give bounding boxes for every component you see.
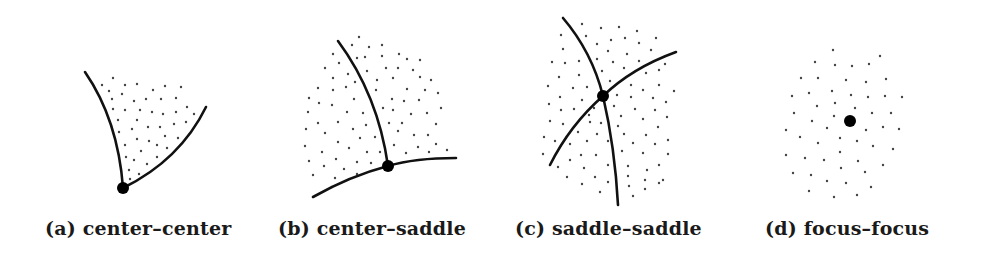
critical-point-a <box>117 182 129 194</box>
dot-field-c <box>542 23 675 197</box>
panel-c-saddle-saddle <box>542 18 676 205</box>
dot-field-d <box>785 49 903 198</box>
curve-b-upper <box>338 41 388 166</box>
curve-a-left <box>85 72 123 188</box>
dot-field-a <box>101 77 195 180</box>
curve-b-lower-right <box>388 158 456 166</box>
curve-c-lower <box>603 96 618 205</box>
panel-a-center-center <box>85 72 206 194</box>
caption-a: (a) center–center <box>45 217 232 239</box>
caption-c: (c) saddle–saddle <box>515 217 702 239</box>
critical-point-c <box>597 90 609 102</box>
caption-d: (d) focus–focus <box>765 217 929 239</box>
critical-point-d <box>844 115 856 127</box>
curve-a-right <box>123 107 206 188</box>
panel-d-focus-focus <box>785 49 903 198</box>
caption-b: (b) center–saddle <box>278 217 466 239</box>
curve-c-upper-right <box>603 52 676 96</box>
curve-b-lower-left <box>313 166 388 197</box>
panel-b-center-saddle <box>304 36 456 197</box>
critical-point-b <box>382 160 394 172</box>
curve-c-upper-left <box>563 18 603 96</box>
